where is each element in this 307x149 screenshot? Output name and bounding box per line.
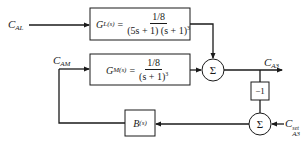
- output-label: CA3: [264, 57, 279, 70]
- negative-gain-label: −1: [251, 82, 269, 100]
- process-tf-fraction: 1/8 (s + 1)3: [139, 57, 168, 82]
- process-transfer-function: GM(s) = 1/8 (s + 1)3: [106, 56, 168, 84]
- output-subscript: A3: [271, 62, 279, 70]
- load-tf-subscript: L(s): [103, 20, 114, 28]
- load-tf-denominator-text: (5s + 1) (s + 1): [127, 26, 187, 37]
- setpoint-subscript: A3: [292, 131, 300, 137]
- controller-subscript: (s): [139, 119, 146, 127]
- process-tf-subscript: M(s): [113, 66, 126, 74]
- error-summer-label: Σ: [249, 113, 271, 135]
- process-tf-exponent: 3: [165, 71, 168, 77]
- load-tf-fraction: 1/8 (5s + 1) (s + 1)3: [127, 11, 190, 36]
- process-tf-numerator: 1/8: [145, 57, 162, 70]
- load-tf-equals: =: [118, 19, 124, 30]
- load-tf-numerator: 1/8: [150, 11, 167, 24]
- manipulated-variable-label: CAM: [53, 55, 70, 68]
- process-tf-equals: =: [129, 65, 135, 76]
- process-tf-denominator-text: (s + 1): [139, 72, 165, 83]
- manipulated-subscript: AM: [60, 60, 70, 68]
- load-disturbance-label: CAL: [8, 19, 24, 32]
- load-to-sum-arrow: [190, 24, 213, 58]
- output-summer-label: Σ: [202, 59, 224, 81]
- setpoint-label: CsetA3: [285, 118, 300, 138]
- load-tf-exponent: 3: [187, 25, 190, 31]
- process-tf-denominator: (s + 1)3: [139, 70, 168, 82]
- load-transfer-function: GL(s) = 1/8 (5s + 1) (s + 1)3: [96, 10, 190, 38]
- setpoint-symbol: C: [285, 117, 292, 129]
- controller-label: B(s): [125, 110, 155, 136]
- load-tf-denominator: (5s + 1) (s + 1)3: [127, 24, 190, 36]
- setpoint-indices: setA3: [292, 126, 300, 138]
- load-disturbance-subscript: AL: [15, 24, 23, 32]
